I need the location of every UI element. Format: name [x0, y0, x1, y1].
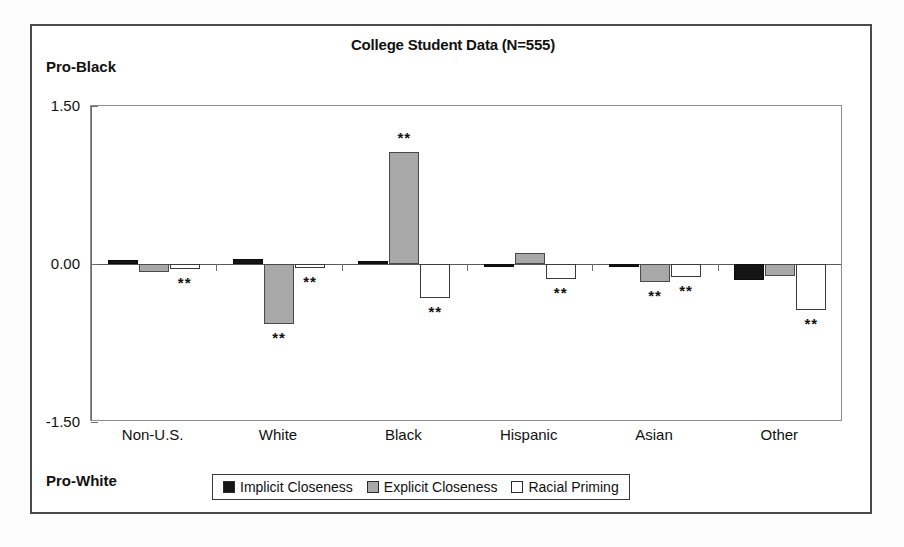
bar-implicit [108, 260, 138, 264]
significance-marker: ** [554, 285, 568, 300]
y-tick-mark [91, 264, 98, 265]
bar-implicit [734, 264, 764, 280]
bar-group [718, 106, 843, 420]
category-tick [342, 264, 343, 271]
x-category-label: Asian [635, 426, 673, 443]
x-category-label: Other [761, 426, 799, 443]
y-axis-tick-labels: 1.500.00-1.50 [32, 105, 90, 421]
pro-white-pole-label: Pro-White [46, 472, 117, 489]
significance-marker: ** [648, 288, 662, 303]
legend-label: Racial Priming [528, 479, 618, 495]
x-category-label: Non-U.S. [122, 426, 184, 443]
chart-title: College Student Data (N=555) [32, 36, 874, 53]
bar-priming [796, 264, 826, 310]
category-tick [718, 264, 719, 271]
significance-marker: ** [272, 330, 286, 345]
bar-implicit [609, 264, 639, 267]
bar-implicit [484, 264, 514, 267]
legend-item: Implicit Closeness [223, 479, 353, 495]
bar-explicit [264, 264, 294, 324]
bar-implicit [233, 259, 263, 264]
legend-item: Explicit Closeness [367, 479, 498, 495]
category-tick [216, 264, 217, 271]
y-tick-label: 0.00 [51, 255, 80, 272]
significance-marker: ** [679, 283, 693, 298]
category-tick [592, 264, 593, 271]
x-axis-category-labels: Non-U.S.WhiteBlackHispanicAsianOther [90, 426, 842, 452]
figure-frame: College Student Data (N=555) Pro-Black P… [30, 24, 872, 514]
bar-priming [420, 264, 450, 298]
x-category-label: White [259, 426, 297, 443]
scanned-page: College Student Data (N=555) Pro-Black P… [0, 0, 904, 547]
category-tick [467, 264, 468, 271]
bar-implicit [358, 261, 388, 264]
bar-explicit [139, 264, 169, 272]
bar-priming [671, 264, 701, 277]
significance-marker: ** [804, 316, 818, 331]
plot-area: ****************** [90, 105, 842, 421]
legend-label: Explicit Closeness [384, 479, 498, 495]
x-category-label: Black [385, 426, 422, 443]
bar-explicit [515, 253, 545, 264]
bar-priming [170, 264, 200, 269]
bar-explicit [765, 264, 795, 276]
significance-marker: ** [397, 130, 411, 145]
significance-marker: ** [303, 274, 317, 289]
y-tick-mark [91, 106, 98, 107]
y-tick-label: -1.50 [46, 413, 80, 430]
bar-group [592, 106, 717, 420]
chart-legend: Implicit ClosenessExplicit ClosenessRaci… [212, 474, 630, 500]
y-tick-mark [91, 422, 98, 423]
black-square-swatch [223, 481, 235, 493]
bar-priming [546, 264, 576, 279]
x-category-label: Hispanic [500, 426, 558, 443]
gray-square-swatch [367, 481, 379, 493]
significance-marker: ** [428, 304, 442, 319]
bar-priming [295, 264, 325, 268]
white-square-swatch [511, 481, 523, 493]
bar-explicit [640, 264, 670, 282]
legend-label: Implicit Closeness [240, 479, 353, 495]
y-tick-label: 1.50 [51, 97, 80, 114]
bar-explicit [389, 152, 419, 264]
pro-black-pole-label: Pro-Black [46, 58, 116, 75]
legend-item: Racial Priming [511, 479, 618, 495]
significance-marker: ** [178, 275, 192, 290]
